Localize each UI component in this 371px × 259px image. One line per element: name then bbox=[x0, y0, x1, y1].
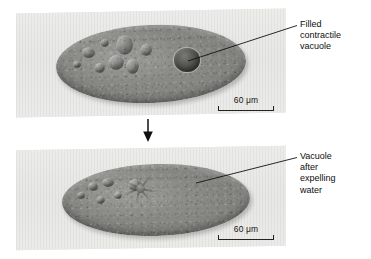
scale-bar-bottom: 60 μm bbox=[218, 224, 274, 240]
callout-line: water bbox=[300, 185, 336, 196]
callout-vacuole-after-expelling-water: Vacuole after expelling water bbox=[300, 151, 336, 196]
callout-line: contractile bbox=[300, 30, 341, 41]
scale-bar-label-bottom: 60 μm bbox=[218, 224, 274, 234]
micrograph-panel-emptied: 60 μm bbox=[16, 146, 286, 251]
scale-bar-line bbox=[218, 110, 274, 111]
scale-bar-rule-bottom bbox=[218, 235, 274, 240]
callout-line: vacuole bbox=[300, 41, 341, 52]
vesicle bbox=[140, 44, 152, 56]
callout-line: after bbox=[300, 162, 336, 173]
panel-inner-bottom: 60 μm bbox=[16, 148, 286, 248]
callout-line: Vacuole bbox=[300, 151, 336, 162]
scale-bar-top: 60 μm bbox=[218, 95, 274, 111]
scale-bar-tick-left bbox=[218, 106, 219, 111]
vesicle bbox=[126, 59, 139, 74]
panel-inner-top: 60 μm bbox=[16, 11, 286, 115]
scale-bar-label-top: 60 μm bbox=[218, 95, 274, 105]
vesicle bbox=[116, 35, 133, 55]
contractile-vacuole-figure: 60 μm bbox=[0, 0, 371, 259]
emptied-vacuole bbox=[140, 188, 141, 189]
scale-bar-line bbox=[218, 239, 274, 240]
vesicle bbox=[102, 178, 114, 187]
arrow-down-icon bbox=[143, 119, 153, 142]
vesicle bbox=[77, 192, 85, 199]
vesicle bbox=[88, 182, 98, 191]
filled-contractile-vacuole bbox=[174, 48, 200, 72]
vesicle bbox=[82, 47, 95, 58]
vesicle bbox=[108, 55, 124, 70]
scale-bar-tick-right bbox=[273, 106, 274, 111]
vesicle bbox=[100, 39, 109, 47]
scale-bar-rule-top bbox=[218, 106, 274, 111]
callout-line: expelling bbox=[300, 173, 336, 184]
scale-bar-tick-right bbox=[273, 235, 274, 240]
micrograph-panel-filled: 60 μm bbox=[16, 8, 286, 117]
scale-bar-tick-left bbox=[218, 235, 219, 240]
vacuole-center bbox=[136, 184, 145, 193]
vesicle bbox=[73, 61, 81, 68]
callout-filled-contractile-vacuole: Filled contractile vacuole bbox=[300, 19, 341, 53]
vesicle bbox=[94, 63, 105, 73]
vesicle bbox=[96, 196, 105, 204]
callout-line: Filled bbox=[300, 19, 341, 30]
